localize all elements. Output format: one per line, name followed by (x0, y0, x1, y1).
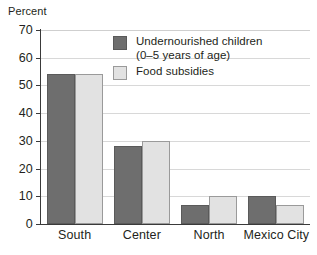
y-tick-mark-30 (36, 141, 41, 142)
legend-item-undernourished-children: Undernourished children (0–5 years of ag… (113, 35, 262, 62)
bar-mexico-city-series0 (248, 196, 276, 224)
legend-swatch-undernourished-children (113, 36, 127, 50)
y-tick-mark-10 (36, 196, 41, 197)
bar-center-series1 (142, 141, 170, 224)
legend-label-line1: Undernourished children (136, 35, 262, 47)
bar-south-series0 (47, 74, 75, 224)
legend-label-line2: (0–5 years of age) (136, 49, 262, 63)
y-axis-title: Percent (8, 5, 47, 18)
y-tick-mark-0 (36, 224, 41, 225)
y-tick-label-60: 60 (3, 52, 33, 65)
y-tick-label-10: 10 (3, 190, 33, 203)
y-tick-mark-70 (36, 30, 41, 31)
y-tick-mark-20 (36, 169, 41, 170)
y-tick-label-30: 30 (3, 135, 33, 148)
legend-swatch-food-subsidies (113, 66, 127, 80)
legend-item-food-subsidies: Food subsidies (113, 65, 214, 80)
gridline-70 (41, 30, 310, 31)
bar-center-series0 (114, 146, 142, 224)
legend-label-undernourished-children: Undernourished children (0–5 years of ag… (136, 35, 262, 62)
bar-chart: Percent 010203040506070 SouthCenterNorth… (0, 0, 317, 255)
bar-south-series1 (75, 74, 103, 224)
y-tick-mark-60 (36, 58, 41, 59)
y-tick-label-20: 20 (3, 163, 33, 176)
y-tick-mark-50 (36, 85, 41, 86)
bar-north-series1 (209, 196, 237, 224)
y-tick-label-40: 40 (3, 107, 33, 120)
bar-mexico-city-series1 (276, 205, 304, 224)
legend-label-food-subsidies: Food subsidies (136, 65, 214, 79)
y-tick-label-70: 70 (3, 24, 33, 37)
bar-north-series0 (181, 205, 209, 224)
y-tick-mark-40 (36, 113, 41, 114)
y-tick-label-50: 50 (3, 79, 33, 92)
x-axis-label-mexico-city: Mexico City (216, 228, 317, 242)
